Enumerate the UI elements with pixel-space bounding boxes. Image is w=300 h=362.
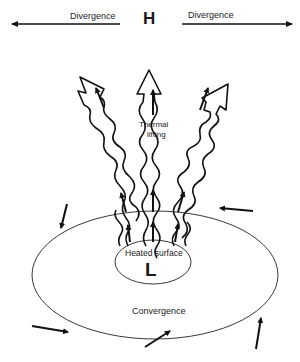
column-inner-arrows: [96, 88, 208, 242]
left-rising-column: [78, 77, 139, 246]
thermal-lifting-label-line2: lifting: [147, 131, 166, 139]
divergence-label-right: Divergence: [188, 11, 234, 20]
divergence-label-left: Divergence: [70, 12, 116, 21]
inflow-arrow-lower-left: [32, 326, 68, 332]
convergence-label: Convergence: [132, 307, 186, 316]
center-rising-column: [137, 70, 161, 258]
inflow-arrow-lower-right: [256, 318, 261, 349]
thermal-lifting-label-line1: Thermal: [139, 121, 168, 129]
inflow-arrow-upper-right: [220, 208, 253, 211]
inflow-arrow-upper-left: [61, 204, 67, 228]
heated-surface-label: Heated surface: [125, 249, 183, 258]
thermal-circulation-diagram: Divergence H Divergence Thermal lifting …: [0, 0, 300, 362]
low-pressure-label: L: [145, 260, 157, 279]
high-pressure-label: H: [143, 10, 155, 27]
